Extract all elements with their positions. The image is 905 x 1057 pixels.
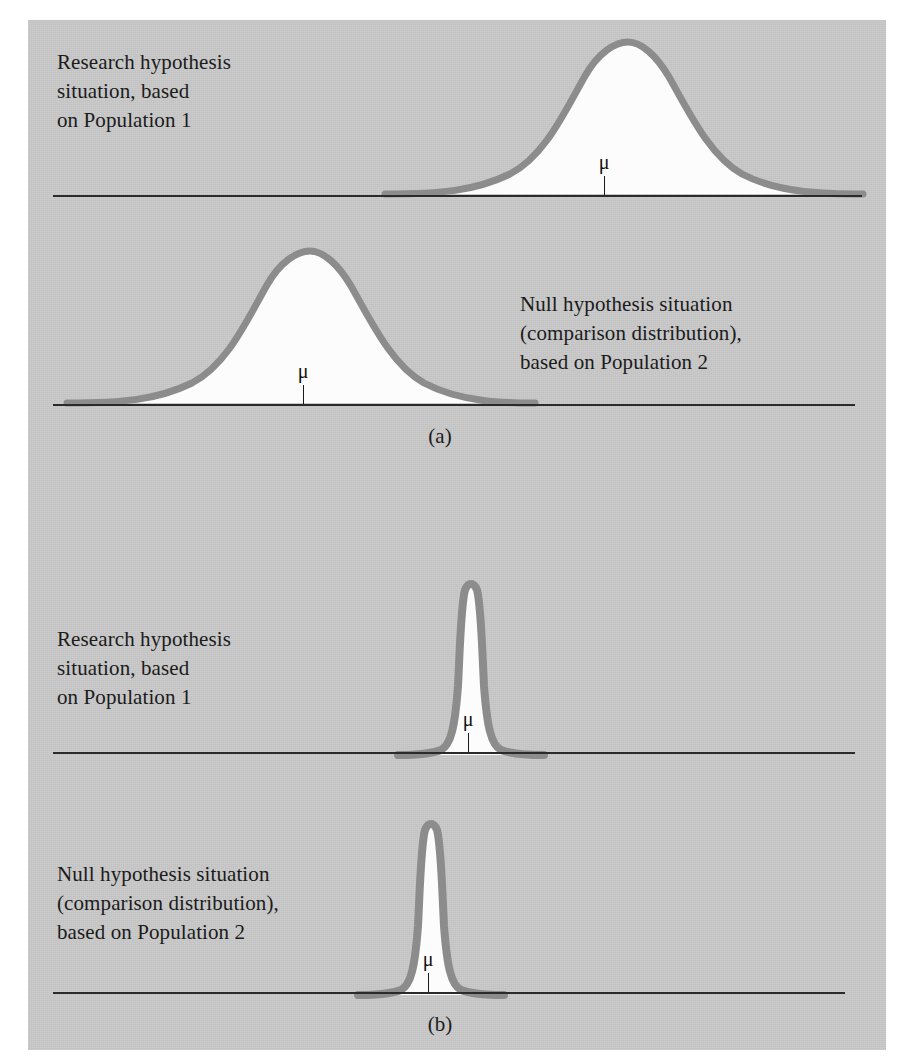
caption-research-hypothesis-b: Research hypothesis situation, based on …: [57, 625, 387, 712]
distribution-curve-research-a: [380, 36, 870, 198]
mu-tick-a1: [604, 176, 605, 197]
mu-tick-b1: [468, 733, 469, 754]
mu-tick-b2: [428, 973, 429, 994]
distribution-curve-research-b: [393, 576, 549, 759]
axis-baseline-b1: [53, 752, 855, 754]
distribution-curve-null-a: [62, 245, 542, 407]
mu-label-a2: μ: [291, 361, 315, 381]
axis-baseline-a2: [53, 404, 855, 406]
bell-curve-svg-a2: [62, 245, 542, 407]
caption-null-hypothesis-a: Null hypothesis situation (comparison di…: [520, 290, 880, 377]
bell-curve-svg-b2: [353, 816, 509, 999]
axis-baseline-b2: [53, 992, 845, 994]
mu-tick-a2: [303, 385, 304, 406]
mu-label-b2: μ: [416, 949, 440, 969]
axis-baseline-a1: [53, 195, 862, 197]
bell-curve-fill-a1: [385, 42, 863, 194]
bell-curve-svg-b1: [393, 576, 549, 759]
bell-curve-svg-a1: [380, 36, 870, 198]
mu-label-b1: μ: [456, 709, 480, 729]
distribution-curve-null-b: [353, 816, 509, 999]
panel-label-a: (a): [400, 424, 480, 449]
mu-label-a1: μ: [592, 152, 616, 172]
figure-page: Research hypothesis situation, based on …: [0, 0, 905, 1057]
panel-label-b: (b): [400, 1012, 480, 1037]
caption-research-hypothesis-a: Research hypothesis situation, based on …: [57, 48, 387, 135]
